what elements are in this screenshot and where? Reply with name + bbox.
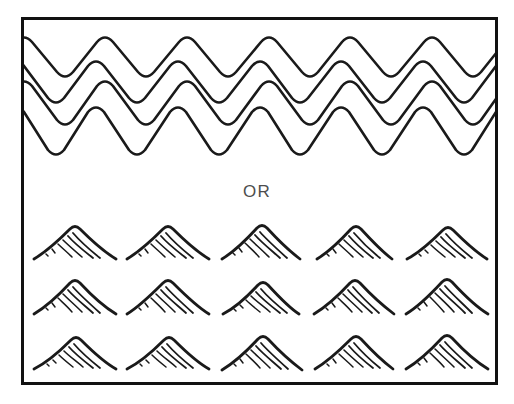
mountain-symbol bbox=[124, 270, 212, 320]
mountain-icon bbox=[32, 217, 118, 263]
mountain-icon bbox=[125, 272, 211, 318]
mountain-symbol bbox=[31, 270, 119, 320]
mountain-icon bbox=[404, 327, 490, 373]
figure-root: OR bbox=[0, 0, 514, 404]
mountain-symbol bbox=[403, 325, 491, 375]
mountain-symbol bbox=[217, 270, 305, 320]
mountain-icon bbox=[125, 327, 211, 373]
mountain-symbol bbox=[217, 215, 305, 265]
lattice-svg bbox=[24, 20, 495, 160]
mountain-icon bbox=[404, 217, 490, 263]
mountain-symbol bbox=[310, 270, 398, 320]
or-label: OR bbox=[0, 183, 514, 200]
lattice-row-back bbox=[24, 38, 495, 77]
lattice-row-front bbox=[24, 108, 495, 155]
mountain-symbol bbox=[310, 215, 398, 265]
lattice-row-back-offset bbox=[24, 62, 495, 103]
mountain-icon bbox=[32, 327, 118, 373]
mountain-icon bbox=[311, 327, 397, 373]
mountain-symbol bbox=[310, 325, 398, 375]
mountain-symbol bbox=[124, 325, 212, 375]
mountain-icon bbox=[218, 327, 304, 373]
lattice-row-middle bbox=[24, 82, 495, 125]
mountain-symbol bbox=[217, 325, 305, 375]
mountain-symbol bbox=[403, 270, 491, 320]
mountain-icon bbox=[404, 272, 490, 318]
discrete-mountain-symbol-grid bbox=[28, 212, 494, 377]
mountain-icon bbox=[311, 272, 397, 318]
mountain-symbol bbox=[31, 325, 119, 375]
mountain-icon bbox=[32, 272, 118, 318]
mountain-icon bbox=[311, 217, 397, 263]
mountain-icon bbox=[125, 217, 211, 263]
mountain-symbol bbox=[124, 215, 212, 265]
mountain-icon bbox=[218, 217, 304, 263]
mountain-symbol bbox=[31, 215, 119, 265]
mountain-symbol bbox=[403, 215, 491, 265]
continuous-mountain-lattice bbox=[24, 20, 495, 160]
mountain-icon bbox=[218, 272, 304, 318]
